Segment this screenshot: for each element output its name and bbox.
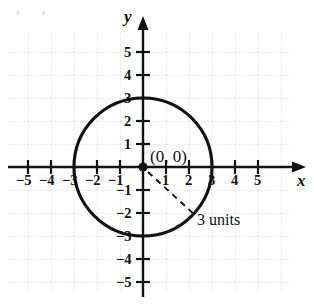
y-tick-label--2: −2	[116, 206, 132, 221]
y-tick-label-5: 5	[124, 45, 131, 60]
radius-annotation-label: 3 units	[197, 212, 240, 228]
y-axis-label: y	[124, 8, 132, 25]
x-axis-label: x	[297, 172, 306, 189]
x-tick-label--4: −4	[39, 173, 55, 188]
y-tick-label--5: −5	[116, 275, 132, 290]
origin-point	[138, 162, 147, 171]
y-tick-label-4: 4	[124, 68, 131, 83]
graph-figure: , ,	[0, 0, 314, 304]
x-tick-label-3: 3	[208, 173, 215, 188]
x-tick-label-4: 4	[231, 173, 238, 188]
x-tick-label--3: −3	[62, 173, 78, 188]
y-tick-label--3: −3	[116, 229, 132, 244]
x-tick-label--2: −2	[85, 173, 101, 188]
x-tick-label-2: 2	[185, 173, 192, 188]
x-tick-label-1: 1	[162, 173, 169, 188]
y-tick-label--1: −1	[116, 183, 132, 198]
origin-coordinate-label: (0, 0)	[150, 148, 187, 165]
y-tick-label-2: 2	[124, 114, 131, 129]
x-tick-label-5: 5	[254, 173, 261, 188]
x-tick-label--5: −5	[16, 173, 32, 188]
y-tick-label-1: 1	[124, 137, 131, 152]
y-tick-label--4: −4	[116, 252, 132, 267]
y-tick-label-3: 3	[124, 91, 131, 106]
